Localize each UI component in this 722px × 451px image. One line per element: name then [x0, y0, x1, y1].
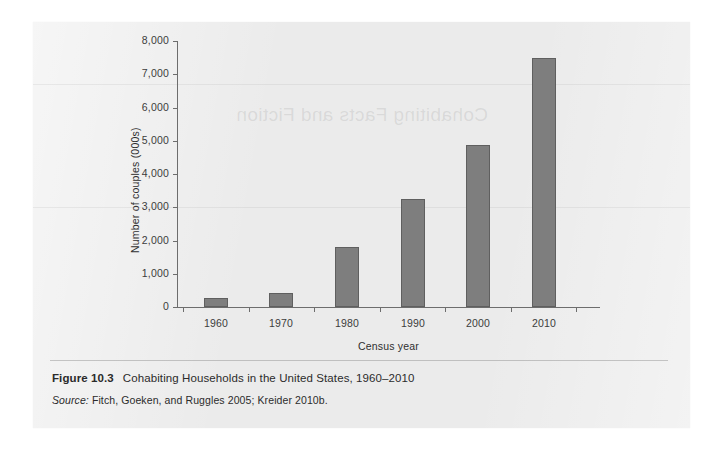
y-axis-tick [173, 307, 177, 308]
y-axis-tick-label: 1,000 [125, 267, 169, 279]
bar [466, 145, 490, 307]
bar [204, 298, 228, 307]
x-axis-tick [249, 308, 250, 312]
source-label: Source: [52, 394, 89, 406]
bar [269, 293, 293, 307]
y-axis-tick [173, 108, 177, 109]
x-axis-tick-label: 1970 [251, 317, 311, 329]
x-axis-tick-label: 1960 [186, 317, 246, 329]
figure-source: Source: Fitch, Goeken, and Ruggles 2005;… [52, 394, 328, 406]
y-axis-tick [173, 207, 177, 208]
figure-caption: Figure 10.3Cohabiting Households in the … [52, 372, 415, 384]
y-axis-line [177, 41, 178, 308]
y-axis-tick-label: 0 [125, 300, 169, 312]
y-axis-tick [173, 41, 177, 42]
x-axis-tick [380, 308, 381, 312]
bar [401, 199, 425, 307]
y-axis-tick-label: 7,000 [125, 67, 169, 79]
y-axis-tick [173, 141, 177, 142]
x-axis-tick-label: 1990 [383, 317, 443, 329]
figure-number: Figure 10.3 [52, 372, 114, 384]
x-axis-tick-label: 1980 [317, 317, 377, 329]
x-axis-tick-label: 2010 [514, 317, 574, 329]
source-citation: Fitch, Goeken, and Ruggles 2005; Kreider… [92, 394, 328, 406]
y-axis-tick [173, 74, 177, 75]
y-axis-title: Number of couples (000s) [129, 127, 141, 253]
bar [532, 58, 556, 307]
y-axis-tick [173, 274, 177, 275]
x-axis-title: Census year [177, 340, 600, 352]
figure-title: Cohabiting Households in the United Stat… [123, 372, 415, 384]
scanned-page-figure: Cohabiting Facts and Fiction 01,0002,000… [0, 0, 722, 451]
y-axis-tick-label: 8,000 [125, 34, 169, 46]
y-axis-tick [173, 241, 177, 242]
caption-divider [50, 360, 668, 361]
x-axis-tick [511, 308, 512, 312]
x-axis-tick [314, 308, 315, 312]
x-axis-tick [445, 308, 446, 312]
y-axis-tick-label: 6,000 [125, 101, 169, 113]
x-axis-tick [183, 308, 184, 312]
x-axis-line [177, 307, 600, 308]
y-axis-tick [173, 174, 177, 175]
bar [335, 247, 359, 307]
x-axis-tick-label: 2000 [448, 317, 508, 329]
x-axis-tick [576, 308, 577, 312]
